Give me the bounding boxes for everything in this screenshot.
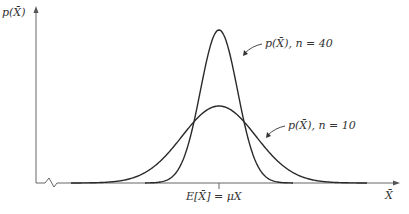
mean-label: E[X̄] = μX [185, 190, 243, 203]
n10-label: p(X̄), n = 10 [288, 119, 356, 132]
curve-n10 [71, 106, 367, 183]
n40-pointer [245, 44, 262, 53]
sampling-distribution-figure: p(X̄) p(X̄), n = 40 p(X̄), n = 10 E[X̄] … [0, 0, 409, 214]
n40-label: p(X̄), n = 40 [265, 37, 333, 50]
y-axis-label: p(X̄) [2, 6, 25, 19]
x-axis-label: X̄ [384, 189, 394, 202]
y-axis-arrow-icon [34, 6, 39, 13]
x-axis-arrow-icon [393, 181, 400, 186]
n10-pointer [268, 126, 285, 135]
